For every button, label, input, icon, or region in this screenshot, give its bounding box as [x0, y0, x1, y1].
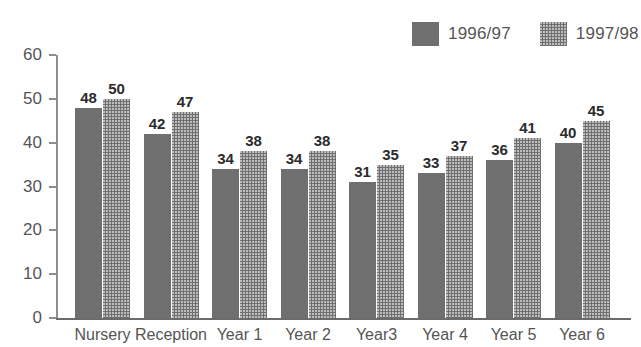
y-axis-tick-label: 20 [6, 220, 42, 240]
bar-value-label: 35 [382, 146, 399, 163]
y-axis-tick [49, 273, 56, 275]
bar[interactable]: 34 [281, 169, 308, 318]
bar-group: 3337 [418, 55, 473, 318]
y-axis-tick-label: 60 [6, 45, 42, 65]
x-axis-line [56, 318, 631, 320]
bar-groups: 48504247343834383135333736414045 [56, 55, 631, 318]
bar-value-label: 48 [80, 89, 97, 106]
y-axis-tick [49, 186, 56, 188]
x-axis-label: Year 6 [527, 326, 637, 344]
y-axis-tick [49, 98, 56, 100]
chart-legend: 1996/97 1997/98 [412, 22, 639, 46]
legend-label-1996-97: 1996/97 [448, 24, 511, 44]
bar-value-label: 50 [108, 80, 125, 97]
bar[interactable]: 50 [103, 99, 130, 318]
bar[interactable]: 42 [144, 134, 171, 318]
bar-value-label: 36 [491, 141, 508, 158]
legend-swatch-1996-97 [412, 22, 439, 46]
bar[interactable]: 38 [240, 151, 267, 318]
bar-value-label: 42 [149, 115, 166, 132]
legend-entry-1997-98: 1997/98 [540, 22, 639, 46]
bar-value-label: 45 [588, 102, 605, 119]
y-axis-tick [49, 229, 56, 231]
y-axis-tick-label: 30 [6, 177, 42, 197]
y-axis-tick [49, 317, 56, 319]
bar-value-label: 41 [519, 119, 536, 136]
plot-area: 0102030405060 48504247343834383135333736… [56, 55, 631, 318]
bar-value-label: 37 [451, 137, 468, 154]
bar-value-label: 34 [217, 150, 234, 167]
bar-group: 4247 [144, 55, 199, 318]
bar-value-label: 47 [177, 93, 194, 110]
bar[interactable]: 48 [75, 108, 102, 318]
bar[interactable]: 38 [309, 151, 336, 318]
bar-value-label: 33 [423, 154, 440, 171]
y-axis-tick [49, 142, 56, 144]
bar-group: 3438 [212, 55, 267, 318]
bar[interactable]: 40 [555, 143, 582, 318]
bar[interactable]: 34 [212, 169, 239, 318]
bar[interactable]: 33 [418, 173, 445, 318]
bar-value-label: 31 [354, 163, 371, 180]
bar[interactable]: 31 [349, 182, 376, 318]
bar-group: 3641 [486, 55, 541, 318]
bar[interactable]: 41 [514, 138, 541, 318]
y-axis-tick-label: 40 [6, 133, 42, 153]
y-axis-tick-label: 50 [6, 89, 42, 109]
bar[interactable]: 37 [446, 156, 473, 318]
bar-value-label: 38 [314, 132, 331, 149]
bar-value-label: 40 [560, 124, 577, 141]
bar[interactable]: 45 [583, 121, 610, 318]
legend-label-1997-98: 1997/98 [576, 24, 639, 44]
bar-group: 3135 [349, 55, 404, 318]
legend-swatch-1997-98 [540, 22, 567, 46]
bar-value-label: 34 [286, 150, 303, 167]
legend-entry-1996-97: 1996/97 [412, 22, 511, 46]
bar-group: 4850 [75, 55, 130, 318]
bar[interactable]: 35 [377, 165, 404, 318]
bar[interactable]: 47 [172, 112, 199, 318]
bar-group: 3438 [281, 55, 336, 318]
bar-chart: 1996/97 1997/98 0102030405060 4850424734… [0, 0, 641, 347]
bar-group: 4045 [555, 55, 610, 318]
y-axis-tick-label: 0 [6, 308, 42, 328]
y-axis-tick-label: 10 [6, 264, 42, 284]
bar[interactable]: 36 [486, 160, 513, 318]
bar-value-label: 38 [245, 132, 262, 149]
y-axis-tick [49, 54, 56, 56]
